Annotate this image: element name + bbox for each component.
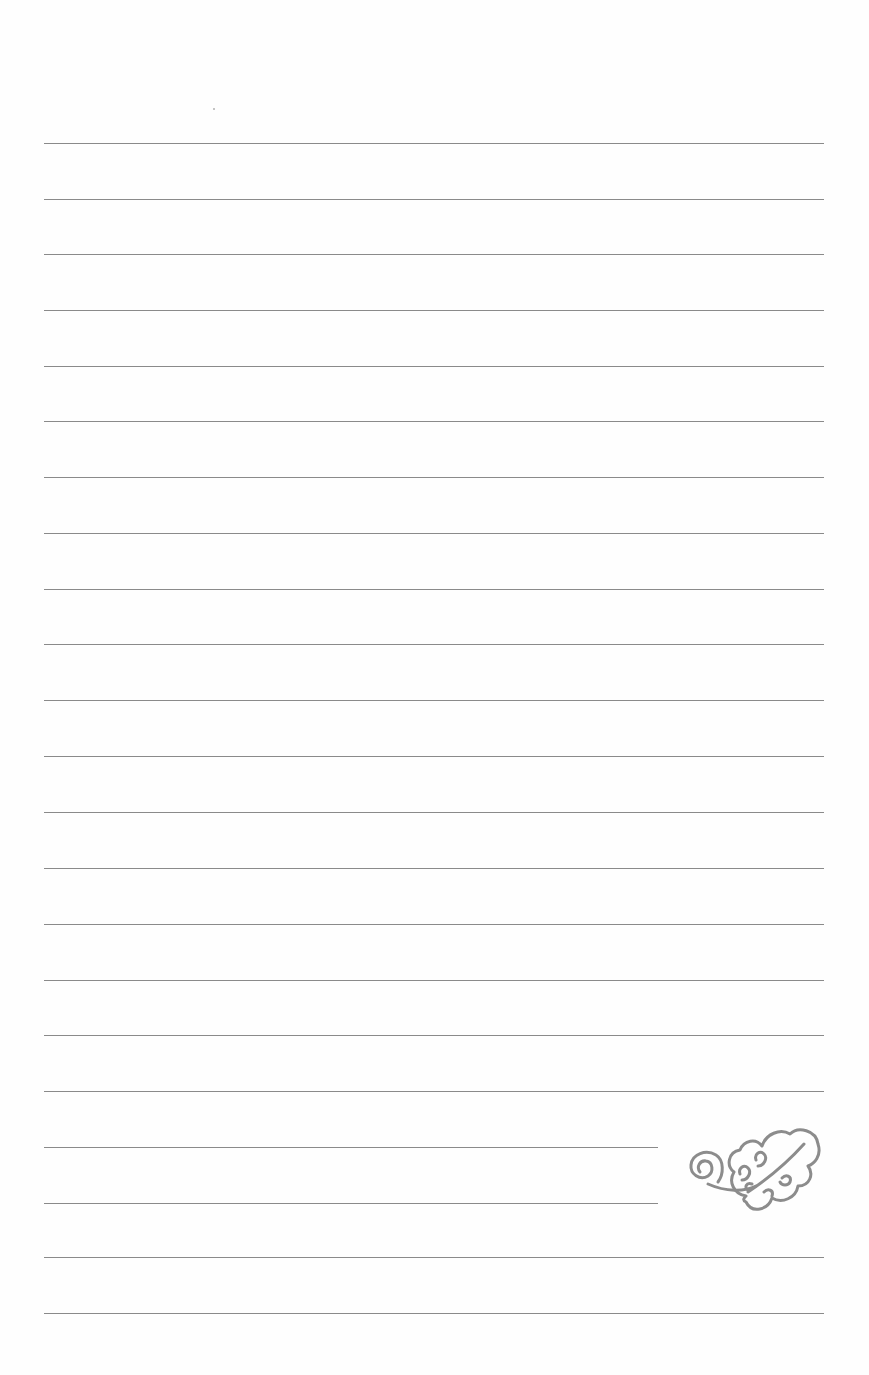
ruled-line <box>44 1091 824 1092</box>
ruled-line <box>44 477 824 478</box>
ruled-line <box>44 421 824 422</box>
ruled-line <box>44 1203 658 1204</box>
ruled-line <box>44 310 824 311</box>
ruled-line <box>44 143 824 144</box>
ruled-line <box>44 868 824 869</box>
ruled-line <box>44 980 824 981</box>
ruled-line <box>44 589 824 590</box>
ruled-line <box>44 1035 824 1036</box>
ruled-line <box>44 756 824 757</box>
paper-speck <box>213 108 215 110</box>
ruled-line <box>44 1257 824 1258</box>
lined-paper-page <box>0 0 869 1375</box>
ruled-line <box>44 366 824 367</box>
ruled-line <box>44 924 824 925</box>
ruled-line <box>44 812 824 813</box>
ruled-line <box>44 1313 824 1314</box>
ruled-line <box>44 254 824 255</box>
ruled-line <box>44 533 824 534</box>
ruled-line <box>44 644 824 645</box>
ruled-line <box>44 199 824 200</box>
ruled-line <box>44 1147 658 1148</box>
swirl-flourish-icon <box>686 1122 826 1222</box>
ruled-line <box>44 700 824 701</box>
